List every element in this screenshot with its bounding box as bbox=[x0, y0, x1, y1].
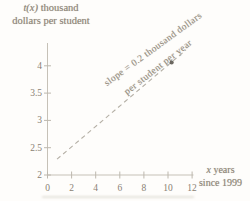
y-tick-label: 3.5 bbox=[30, 88, 42, 98]
x-tick-label: 2 bbox=[69, 183, 74, 193]
x-axis-label-rest: years bbox=[211, 164, 235, 175]
x-tick-label: 4 bbox=[93, 183, 98, 193]
x-tick-label: 8 bbox=[142, 183, 147, 193]
y-tick-label: 4 bbox=[37, 61, 42, 71]
model-line bbox=[57, 50, 186, 159]
x-axis-label-line2: since 1999 bbox=[199, 177, 242, 188]
x-tick-label: 6 bbox=[117, 183, 122, 193]
y-tick-label: 2 bbox=[37, 170, 42, 180]
x-tick-label: 0 bbox=[45, 183, 50, 193]
x-axis-label: x years since 1999 bbox=[191, 163, 250, 189]
y-tick-label: 2.5 bbox=[30, 143, 42, 153]
chart-figure: t(x) thousand dollars per student slope … bbox=[0, 0, 250, 201]
x-tick-label: 10 bbox=[163, 183, 173, 193]
y-tick-label: 3 bbox=[37, 115, 42, 125]
scan-artifact bbox=[42, 196, 194, 198]
data-point bbox=[170, 60, 174, 64]
